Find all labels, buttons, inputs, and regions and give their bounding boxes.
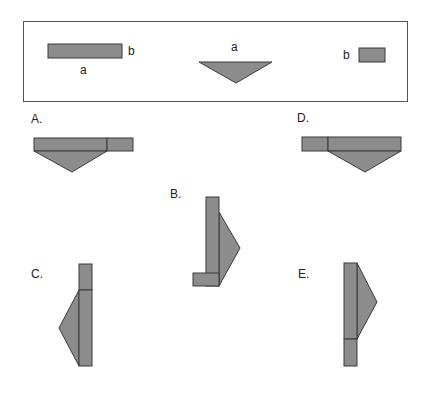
option-a-label[interactable]: A.: [31, 113, 42, 125]
option-e-figure[interactable]: [344, 263, 377, 366]
given-square: [359, 48, 385, 62]
option-c-label[interactable]: C.: [31, 268, 43, 280]
option-b-figure[interactable]: [193, 197, 240, 286]
rectangle-long-side-label: a: [80, 64, 87, 76]
option-e-label[interactable]: E.: [298, 268, 309, 280]
option-d-label[interactable]: D.: [297, 112, 309, 124]
option-a-figure[interactable]: [34, 138, 133, 172]
option-b-label[interactable]: B.: [170, 188, 181, 200]
option-c-figure[interactable]: [59, 264, 92, 366]
diagram-canvas: [0, 0, 424, 399]
triangle-base-label: a: [231, 41, 238, 53]
square-side-label: b: [343, 49, 350, 61]
rectangle-short-side-label: b: [128, 45, 135, 57]
given-rectangle: [48, 44, 122, 58]
given-triangle: [199, 62, 272, 83]
option-d-figure[interactable]: [302, 137, 401, 172]
